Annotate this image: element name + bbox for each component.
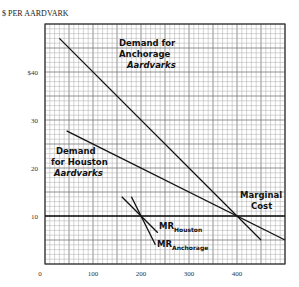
x-tick-label: 200 bbox=[136, 270, 147, 278]
label-demand-anchorage-1: Demand for bbox=[119, 38, 176, 48]
chart: 0100200300400102030$40 Demand for Anchor… bbox=[0, 0, 299, 287]
label-demand-houston-1: Demand bbox=[56, 146, 96, 156]
label-marginal-cost-2: Cost bbox=[251, 201, 272, 211]
label-demand-houston-2: for Houston bbox=[51, 157, 108, 167]
x-tick-label: 300 bbox=[184, 270, 195, 278]
x-tick-label: 400 bbox=[232, 270, 243, 278]
label-demand-anchorage-3: Aardvarks bbox=[126, 60, 176, 70]
label-marginal-cost-1: Marginal bbox=[240, 190, 282, 200]
x-tick-label: 100 bbox=[88, 270, 99, 278]
y-tick-label: 10 bbox=[31, 213, 39, 221]
label-mr-houston: MRHouston bbox=[159, 221, 202, 233]
y-tick-label: 20 bbox=[31, 165, 39, 173]
x-tick-label: 0 bbox=[38, 270, 42, 278]
series-demand-for-houston-aardvarks bbox=[67, 131, 285, 240]
label-demand-anchorage-2: Anchorage bbox=[119, 49, 171, 59]
y-tick-label: 30 bbox=[31, 117, 39, 125]
y-tick-label: $40 bbox=[28, 69, 39, 77]
label-demand-houston-3: Aardvarks bbox=[53, 168, 103, 178]
